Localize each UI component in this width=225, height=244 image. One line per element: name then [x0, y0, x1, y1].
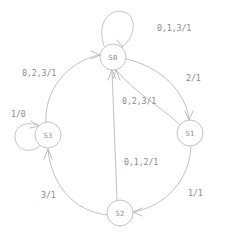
transition-s2-to-s0-path	[112, 71, 117, 200]
state-node-s3[interactable]: S3	[35, 122, 61, 148]
transition-label-s2-to-s3: 3/1	[41, 190, 56, 200]
transition-label-s2-to-s0: 0,1,2/1	[124, 157, 158, 167]
transition-s3-to-s0	[46, 51, 100, 122]
state-node-s2[interactable]: S2	[107, 200, 133, 226]
transition-s2-to-s0	[108, 70, 117, 200]
transition-s3-to-s0-path	[46, 55, 99, 122]
transition-label-s3-to-s0: 0,2,3/1	[22, 68, 56, 78]
transition-label-s0-self: 0,1,3/1	[157, 23, 191, 33]
transition-label-s3-self: 1/0	[11, 109, 26, 119]
transition-label-s0-to-s1: 2/1	[186, 73, 201, 83]
transition-s0-self	[102, 11, 134, 47]
state-node-s1[interactable]: S1	[177, 120, 203, 146]
transition-s2-to-s3-path	[48, 150, 107, 215]
state-node-s0-label: S0	[108, 53, 117, 62]
state-node-s3-label: S3	[43, 131, 52, 140]
transition-s2-to-s3	[44, 149, 107, 215]
state-diagram-canvas: S0 S1 S2 S3 0,1,3/1 2/1 0,2,3/1 1/1 0,1,…	[0, 0, 225, 244]
state-diagram: S0 S1 S2 S3 0,1,3/1 2/1 0,2,3/1 1/1 0,1,…	[0, 0, 225, 244]
state-node-s0[interactable]: S0	[100, 44, 126, 70]
transition-label-s1-to-s2: 1/1	[188, 188, 203, 198]
state-node-s1-label: S1	[185, 129, 194, 138]
transition-label-s1-to-s0: 0,2,3/1	[122, 96, 156, 106]
state-node-s2-label: S2	[115, 209, 124, 218]
